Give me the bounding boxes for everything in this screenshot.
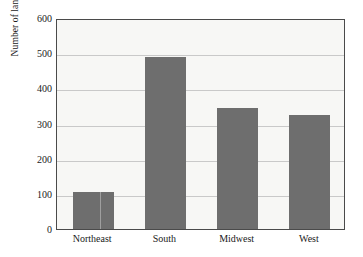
- x-axis-tick-label: Midwest: [219, 233, 254, 245]
- x-axis-tick-label: West: [299, 233, 319, 245]
- y-axis-tick-label: 500: [24, 49, 52, 59]
- x-axis-tick-labels: NortheastSouthMidwestWest: [56, 233, 345, 251]
- y-axis-tick-labels: 0100200300400500600: [24, 19, 52, 230]
- y-axis-tick-label: 200: [24, 155, 52, 165]
- scan-artifact: [100, 192, 101, 229]
- x-axis-tick-label: South: [153, 233, 176, 245]
- plot-area: [56, 19, 345, 230]
- bar: [289, 115, 330, 229]
- y-axis-tick-label: 100: [24, 190, 52, 200]
- bar: [217, 108, 258, 229]
- y-axis-tick-label: 300: [24, 120, 52, 130]
- bar: [73, 192, 114, 229]
- bars-layer: [57, 20, 344, 229]
- y-axis-tick-label: 0: [24, 225, 52, 235]
- bar: [145, 57, 186, 229]
- y-axis-tick-label: 600: [24, 14, 52, 24]
- y-axis-tick-label: 400: [24, 84, 52, 94]
- x-axis-tick-label: Northeast: [73, 233, 112, 245]
- bar-chart-figure: Number of landfills 0100200300400500600 …: [0, 0, 363, 257]
